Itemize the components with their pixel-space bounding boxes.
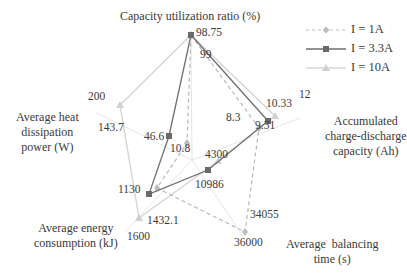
value-label: 12	[299, 88, 311, 101]
value-label: 36000	[234, 236, 263, 249]
legend-item-3.3A: I = 3.3A	[305, 39, 393, 58]
axis-title-heat-dissipation: Average heat dissipation power (W)	[16, 110, 79, 155]
axis-title-line: charge-discharge	[325, 129, 407, 144]
legend-item-10A: I = 10A	[305, 58, 393, 77]
axis-title-line: consumption (kJ)	[34, 236, 118, 251]
axis-title-line: capacity (Ah)	[325, 144, 407, 159]
dashed-diamond-line-icon	[305, 25, 347, 35]
axis-title-capacity-utilization: Capacity utilization ratio (%)	[120, 9, 260, 24]
axis-title-line: Average heat	[16, 110, 79, 125]
value-label: 200	[88, 90, 105, 103]
axis-title-line: dissipation	[16, 125, 79, 140]
legend: I = 1A I = 3.3A I = 10A	[305, 20, 393, 77]
solid-square-line-icon	[305, 44, 347, 54]
value-label: 46.6	[144, 130, 164, 143]
value-label: 1432.1	[147, 214, 179, 227]
value-label: 99	[200, 48, 212, 61]
value-label: 1130	[118, 183, 141, 196]
value-label: 34055	[250, 208, 279, 221]
value-label: 143.7	[98, 121, 124, 134]
value-label: 9.31	[255, 119, 275, 132]
axis-title-line: Average energy	[34, 221, 118, 236]
solid-triangle-line-icon	[305, 63, 347, 73]
axis-title-line: power (W)	[16, 140, 79, 155]
axis-title-energy-consumption: Average energy consumption (kJ)	[34, 221, 118, 251]
value-label: 98.75	[196, 26, 222, 39]
axis-title-line: time (s)	[286, 252, 378, 267]
value-label: 1600	[127, 230, 150, 243]
legend-label: I = 3.3A	[351, 41, 393, 56]
value-label: 4300	[205, 148, 228, 161]
value-label: 8.3	[226, 111, 240, 124]
axis-title-line: Accumulated	[325, 114, 407, 129]
value-label: 10.33	[266, 97, 292, 110]
value-label: 10986	[195, 178, 224, 191]
legend-label: I = 10A	[351, 60, 390, 75]
axis-title-balancing-time: Average balancing time (s)	[286, 237, 378, 267]
value-label: 10.8	[170, 142, 190, 155]
axis-title-accumulated-capacity: Accumulated charge-discharge capacity (A…	[325, 114, 407, 159]
legend-item-1A: I = 1A	[305, 20, 393, 39]
legend-label: I = 1A	[351, 22, 384, 37]
axis-title-line: Average balancing	[286, 237, 378, 252]
